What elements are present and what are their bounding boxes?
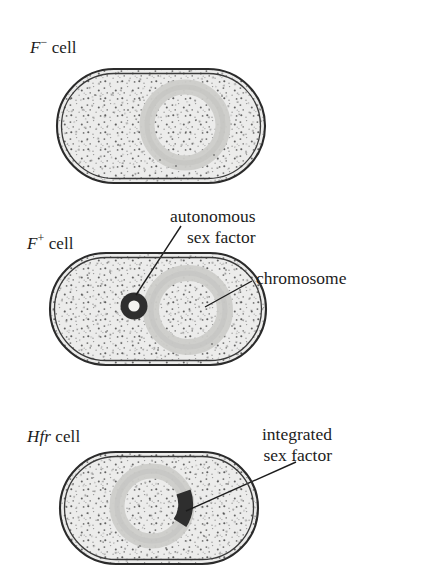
cell-f-minus bbox=[57, 69, 265, 183]
cell-label-hfr: Hfr cell bbox=[27, 428, 80, 445]
cell-label-f-minus-superscript: − bbox=[40, 35, 47, 49]
cell-label-f-plus-superscript: + bbox=[37, 231, 44, 245]
callout-autonomous-sex-factor-line2: sex factor bbox=[170, 227, 256, 248]
cell-label-f-minus: F− cell bbox=[30, 36, 77, 56]
cell-label-hfr-suffix: cell bbox=[55, 427, 80, 446]
cell-label-hfr-symbol: Hfr bbox=[27, 427, 51, 446]
callout-integrated-sex-factor-line2: sex factor bbox=[262, 445, 332, 466]
figure-canvas bbox=[0, 0, 437, 583]
callout-chromosome-line1: chromosome bbox=[256, 268, 346, 288]
bacterial-cell-types-figure: F− cell F+ cell Hfr cell autonomous sex … bbox=[0, 0, 437, 583]
cell-label-f-plus-suffix: cell bbox=[49, 234, 74, 253]
callout-chromosome: chromosome bbox=[256, 268, 346, 289]
cell-label-f-plus: F+ cell bbox=[27, 232, 74, 252]
callout-integrated-sex-factor: integrated sex factor bbox=[262, 424, 332, 465]
integrated-sex-factor-segment bbox=[180, 492, 186, 523]
callout-integrated-sex-factor-line1: integrated bbox=[262, 424, 332, 444]
cytoplasm-texture-f-minus bbox=[57, 69, 265, 183]
cell-label-f-minus-suffix: cell bbox=[52, 38, 77, 57]
cell-label-f-minus-symbol: F bbox=[30, 38, 40, 57]
callout-autonomous-sex-factor-line1: autonomous bbox=[170, 206, 256, 226]
autonomous-sex-factor-plasmid bbox=[121, 293, 148, 320]
cell-hfr bbox=[60, 452, 296, 564]
callout-autonomous-sex-factor: autonomous sex factor bbox=[170, 206, 256, 247]
cell-label-f-plus-symbol: F bbox=[27, 234, 37, 253]
